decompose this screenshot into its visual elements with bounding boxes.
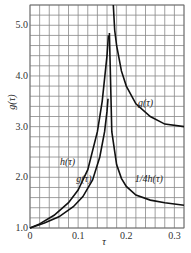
- y-tick-label: 5.0: [16, 19, 29, 30]
- chart: 00.10.20.31.02.03.04.05.0 g(τ)h(τ)g(τ)1/…: [0, 0, 191, 253]
- curve-label: h(τ): [60, 156, 76, 168]
- curve-label: g(τ): [76, 173, 92, 185]
- x-axis-label: τ: [102, 236, 106, 247]
- curve-label: g(τ): [138, 97, 154, 109]
- y-tick-label: 3.0: [16, 121, 29, 132]
- y-tick-label: 4.0: [16, 70, 29, 81]
- x-tick-label: 0: [28, 230, 33, 241]
- series-line: [30, 35, 108, 228]
- x-tick-label: 0.2: [120, 230, 133, 241]
- y-tick-label: 2.0: [16, 171, 29, 182]
- curve-label: 1/4h(τ): [135, 173, 164, 185]
- x-tick-label: 0.3: [168, 230, 181, 241]
- x-tick-label: 0.1: [72, 230, 85, 241]
- y-axis-label: g(τ): [6, 94, 18, 110]
- y-tick-label: 1.0: [16, 222, 29, 233]
